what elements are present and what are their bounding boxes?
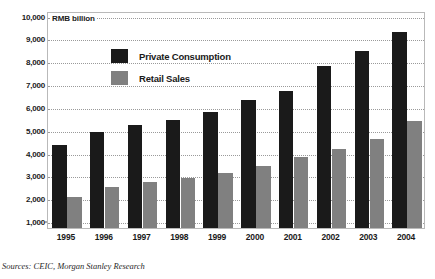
bar-private-consumption xyxy=(279,91,294,228)
bar-group xyxy=(128,13,158,228)
bar-private-consumption xyxy=(317,66,332,228)
x-axis-tick-label: 2001 xyxy=(284,232,302,242)
bar-group xyxy=(355,13,385,228)
y-axis: 1,0002,0003,0004,0005,0006,0007,0008,000… xyxy=(0,12,45,229)
bar-retail-sales xyxy=(294,157,309,228)
bar-private-consumption xyxy=(355,51,370,228)
bar-private-consumption xyxy=(241,100,256,228)
bar-group xyxy=(392,13,422,228)
bar-retail-sales xyxy=(181,178,196,228)
bar-private-consumption xyxy=(203,112,218,228)
x-axis-tick-label: 2003 xyxy=(359,232,377,242)
chart-page: 1,0002,0003,0004,0005,0006,0007,0008,000… xyxy=(0,0,435,279)
bar-private-consumption xyxy=(128,125,143,228)
y-axis-tick-label: 10,000 xyxy=(1,12,45,21)
bar-retail-sales xyxy=(67,197,82,228)
x-axis-tick-label: 1995 xyxy=(57,232,75,242)
x-axis-tick-label: 2002 xyxy=(321,232,339,242)
bar-group xyxy=(90,13,120,228)
x-axis-tick-label: 1996 xyxy=(95,232,113,242)
bar-group xyxy=(279,13,309,228)
legend: Private ConsumptionRetail Sales xyxy=(111,49,231,93)
legend-label-private_consumption: Private Consumption xyxy=(139,51,231,62)
bar-private-consumption xyxy=(392,32,407,228)
bar-retail-sales xyxy=(332,149,347,228)
bar-retail-sales xyxy=(105,187,120,228)
y-axis-tick-label: 5,000 xyxy=(1,126,45,135)
legend-item: Retail Sales xyxy=(111,71,231,85)
bar-retail-sales xyxy=(407,121,422,228)
x-axis-tick-label: 2000 xyxy=(246,232,264,242)
bar-group xyxy=(317,13,347,228)
y-axis-tick-label: 9,000 xyxy=(1,35,45,44)
bar-private-consumption xyxy=(166,120,181,229)
source-note: Sources: CEIC, Morgan Stanley Research xyxy=(2,261,145,271)
x-axis-tick-label: 1997 xyxy=(132,232,150,242)
x-axis-tick-label: 2004 xyxy=(397,232,415,242)
y-axis-tick-label: 6,000 xyxy=(1,103,45,112)
bar-private-consumption xyxy=(90,132,105,228)
legend-swatch-private_consumption xyxy=(111,49,128,63)
x-axis-tick-label: 1999 xyxy=(208,232,226,242)
legend-label-retail_sales: Retail Sales xyxy=(139,73,190,84)
bar-group xyxy=(241,13,271,228)
y-axis-tick-label: 7,000 xyxy=(1,81,45,90)
y-axis-unit-label: RMB billion xyxy=(51,14,97,23)
legend-item: Private Consumption xyxy=(111,49,231,63)
y-axis-tick-label: 1,000 xyxy=(1,218,45,227)
bar-private-consumption xyxy=(52,145,67,228)
bar-retail-sales xyxy=(143,182,158,228)
legend-swatch-retail_sales xyxy=(111,71,128,85)
bar-group xyxy=(166,13,196,228)
x-axis: 1995199619971998199920002001200220032004 xyxy=(47,232,425,246)
x-axis-tick-label: 1998 xyxy=(170,232,188,242)
plot-area xyxy=(47,12,425,229)
bar-retail-sales xyxy=(218,173,233,228)
bar-retail-sales xyxy=(256,166,271,228)
y-axis-tick-label: 3,000 xyxy=(1,172,45,181)
bar-group xyxy=(52,13,82,228)
y-axis-tick-label: 8,000 xyxy=(1,58,45,67)
bars-layer xyxy=(48,13,424,228)
bar-group xyxy=(203,13,233,228)
bar-retail-sales xyxy=(370,139,385,228)
y-axis-tick-label: 4,000 xyxy=(1,149,45,158)
y-axis-tick-label: 2,000 xyxy=(1,195,45,204)
